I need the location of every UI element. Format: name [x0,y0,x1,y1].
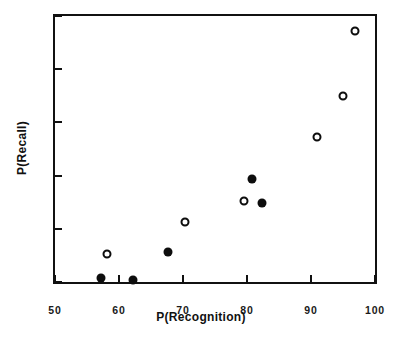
plot-frame: 010203040505060708090100 [53,14,377,284]
data-point-open-circle [103,250,112,259]
x-axis-tick [182,275,184,282]
data-point-open-circle [313,133,322,142]
data-point-filled-circle [163,247,172,256]
data-point-filled-circle [129,275,138,284]
x-axis-tick [246,275,248,282]
y-axis-tick [55,175,62,177]
data-point-filled-circle [97,274,106,283]
data-point-open-circle [239,196,248,205]
data-point-filled-circle [257,199,266,208]
y-axis-tick [55,121,62,123]
y-axis-tick [55,68,62,70]
x-axis-tick [118,275,120,282]
scatter-plot-figure: 010203040505060708090100 P(Recognition) … [0,0,402,337]
data-point-open-circle [180,218,189,227]
data-point-open-circle [350,26,359,35]
y-axis-tick [55,281,62,283]
y-axis-title: P(Recall) [15,88,29,208]
x-axis-tick [374,275,376,282]
x-axis-tick [310,275,312,282]
data-point-open-circle [339,92,348,101]
y-axis-tick [55,228,62,230]
y-axis-tick [55,15,62,17]
data-point-filled-circle [248,174,257,183]
x-axis-title: P(Recognition) [0,310,402,324]
x-axis-tick [54,275,56,282]
plot-area [55,16,375,282]
